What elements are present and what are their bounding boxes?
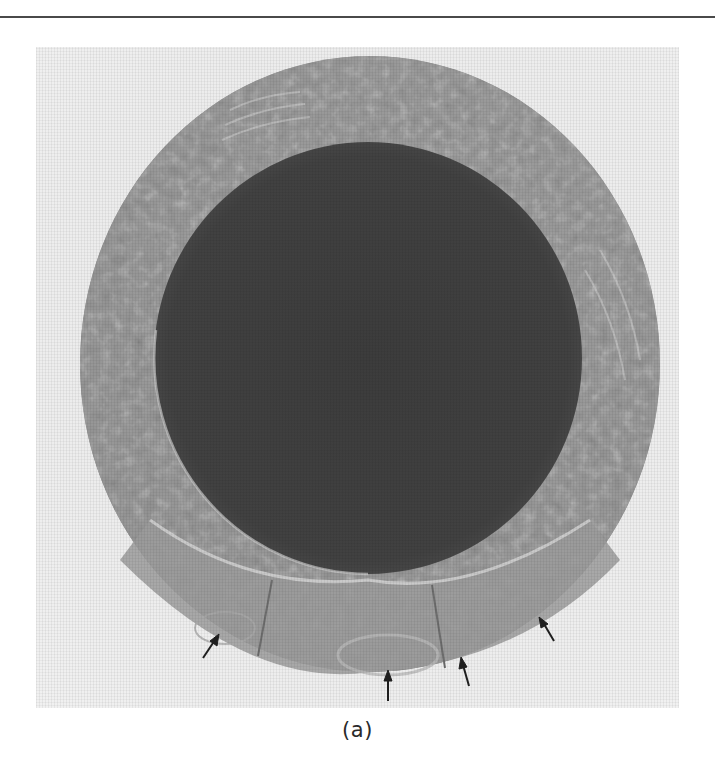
top-horizontal-rule [0,16,715,18]
figure-panel-label: (a) [0,718,715,742]
fracture-surface-image [36,47,679,708]
figure-photograph [36,47,679,708]
